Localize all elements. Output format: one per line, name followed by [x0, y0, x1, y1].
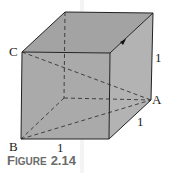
front-face [21, 52, 110, 139]
vertex-label-a: A [152, 92, 162, 107]
caption-word: IGURE [15, 156, 47, 167]
figure-caption: FIGURE2.14 [7, 153, 77, 168]
vertex-label-b: B [9, 139, 18, 154]
edge-label-depth: 1 [137, 114, 144, 129]
cube-figure: C A B 1 1 1 FIGURE2.14 [0, 0, 171, 173]
caption-initial: F [7, 153, 15, 168]
edge-label-right-vertical: 1 [155, 50, 162, 65]
vertex-label-c: C [9, 44, 18, 59]
caption-number: 2.14 [51, 153, 77, 168]
